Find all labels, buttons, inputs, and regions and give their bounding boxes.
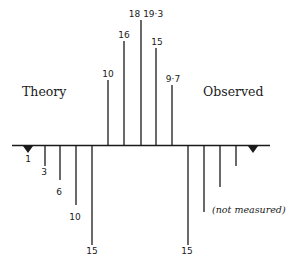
diagram-canvas: 10 16 18 19·3 15 9·7 1 3 6 10 15: [0, 0, 292, 262]
upper-label-4: 15: [151, 37, 162, 47]
stick-diagram: 10 16 18 19·3 15 9·7 1 3 6 10 15: [0, 0, 292, 262]
lower-left-label-2: 3: [41, 167, 47, 177]
lower-left-labels: 1 3 6 10 15: [25, 154, 98, 256]
triangle-marker-right: [248, 146, 258, 153]
upper-label-1: 10: [102, 69, 114, 79]
lower-left-label-5: 15: [86, 246, 97, 256]
theory-label: Theory: [22, 84, 67, 99]
lower-left-label-4: 10: [69, 212, 81, 222]
upper-label-3: 18 19·3: [129, 9, 163, 19]
lower-right-bars: [188, 145, 258, 245]
triangle-marker-left: [23, 146, 33, 153]
lower-right-label-1: 15: [181, 246, 192, 256]
lower-left-label-3: 6: [56, 187, 62, 197]
not-measured-note: (not measured): [212, 204, 286, 215]
observed-label: Observed: [203, 84, 264, 99]
upper-label-2: 16: [118, 30, 130, 40]
lower-left-label-1: 1: [25, 154, 31, 164]
upper-label-5: 9·7: [166, 74, 180, 84]
